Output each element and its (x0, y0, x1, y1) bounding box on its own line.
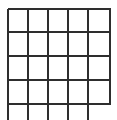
canvas-background (0, 0, 117, 120)
grid-image-canvas (0, 0, 117, 120)
grid-drawing (0, 0, 117, 120)
